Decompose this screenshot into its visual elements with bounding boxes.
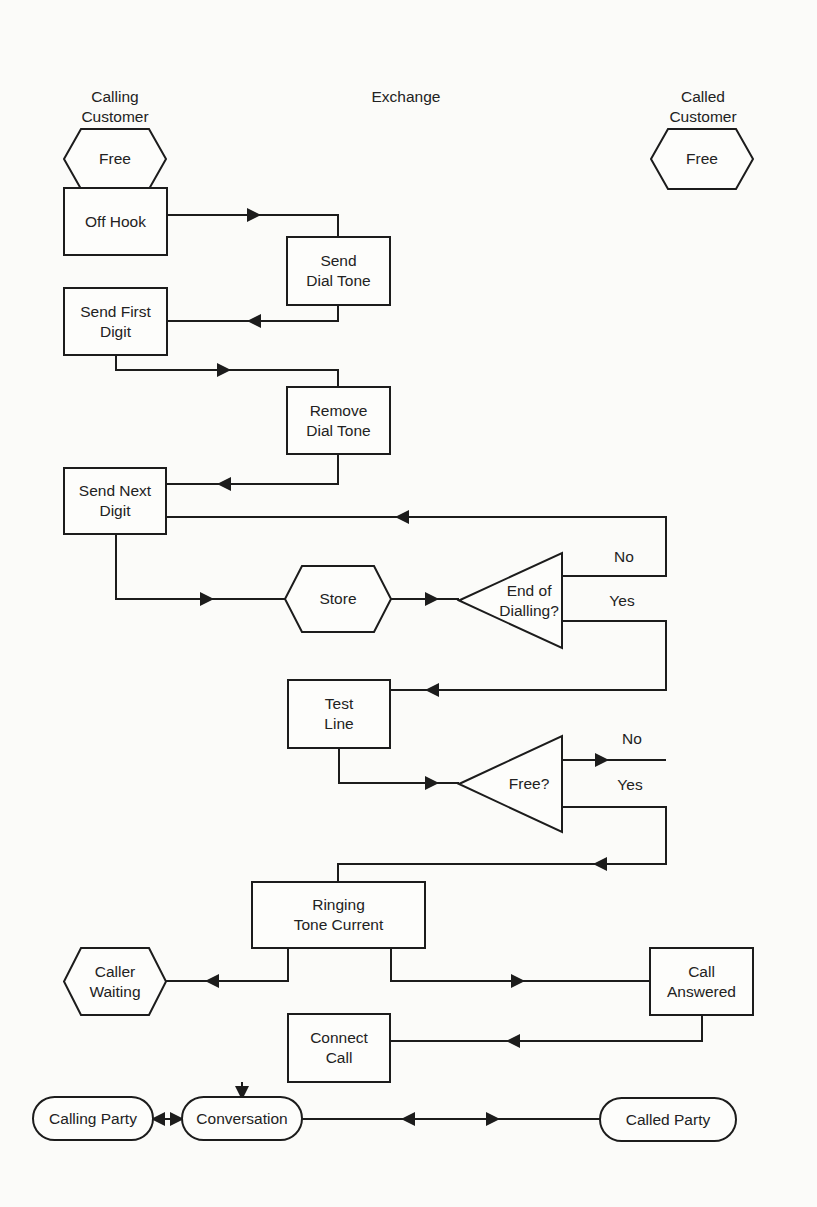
node-label: Free (686, 150, 718, 167)
node-called-party: Called Party (600, 1098, 736, 1141)
node-free-check: Free? (459, 736, 562, 832)
node-end-of-dialling: End ofDialling? (459, 553, 562, 648)
node-label: Answered (667, 983, 736, 1000)
node-caller-waiting: CallerWaiting (64, 948, 166, 1015)
process-box (64, 468, 166, 534)
node-label: Off Hook (85, 213, 146, 230)
node-label: End of (507, 582, 553, 599)
node-label: Digit (99, 502, 131, 519)
node-label: Waiting (89, 983, 140, 1000)
connector-send-next-digit-to-store (116, 534, 285, 606)
process-box (287, 387, 390, 454)
arrowhead-right-icon (486, 1112, 500, 1126)
arrowhead-left-icon (593, 857, 607, 871)
node-conversation: Conversation (182, 1097, 302, 1140)
arrowhead-left-icon (395, 510, 409, 524)
connector-ringing-tone-current-to-call-answered (391, 948, 650, 988)
process-box (64, 288, 167, 355)
state-hexagon (64, 948, 166, 1015)
column-header-calling-customer: Customer (81, 108, 148, 125)
node-send-first-digit: Send FirstDigit (64, 288, 167, 355)
branch-label: Yes (609, 592, 635, 609)
node-label: Remove (310, 402, 368, 419)
page-number: 22 (0, 0, 21, 1)
connector-off-hook-to-send-dial-tone (167, 208, 338, 237)
node-label: Connect (310, 1029, 368, 1046)
column-header-exchange: Exchange (372, 88, 441, 105)
node-calling-party: Calling Party (33, 1097, 153, 1140)
page-header: 22 HANDBOOK OF DATA COMMUNICATIONS (0, 0, 620, 1)
node-label: Send (320, 252, 356, 269)
node-label: Caller (95, 963, 135, 980)
connector-call-answered-to-connect-call (390, 1015, 702, 1048)
process-box (288, 1014, 390, 1082)
node-label: Ringing (312, 896, 365, 913)
connector-ringing-tone-current-to-caller-waiting (166, 948, 288, 988)
connector-calling-party-to-conversation (151, 1112, 184, 1126)
arrowhead-right-icon (425, 592, 439, 606)
connector-free-check-to-exit-no: No (562, 730, 666, 767)
node-label: Tone Current (294, 916, 384, 933)
connector-test-line-to-free-check (339, 748, 459, 790)
node-off-hook: Off Hook (64, 188, 167, 255)
node-label: Free (99, 150, 131, 167)
node-label: Store (319, 590, 356, 607)
branch-label: No (622, 730, 642, 747)
node-send-dial-tone: SendDial Tone (287, 237, 390, 305)
node-free-calling: Free (64, 129, 166, 189)
connector-conversation-to-called-party (302, 1112, 600, 1126)
node-free-called: Free (651, 129, 753, 189)
node-label: Called Party (626, 1111, 711, 1128)
arrowhead-left-icon (425, 683, 439, 697)
branch-label: Yes (617, 776, 643, 793)
connectors: NoYesNoYes (109, 176, 702, 1126)
node-remove-dial-tone: RemoveDial Tone (287, 387, 390, 454)
connector-send-dial-tone-to-send-first-digit (167, 305, 338, 328)
process-box (252, 882, 425, 948)
arrowhead-right-icon (595, 753, 609, 767)
arrowhead-right-icon (217, 363, 231, 377)
node-label: Dialling? (499, 602, 559, 619)
node-label: Conversation (196, 1110, 287, 1127)
node-call-answered: CallAnswered (650, 948, 753, 1015)
nodes: FreeFreeOff HookSendDial ToneSend FirstD… (33, 129, 753, 1141)
node-label: Call (326, 1049, 353, 1066)
node-connect-call: ConnectCall (288, 1014, 390, 1082)
node-test-line: TestLine (288, 680, 390, 748)
node-ringing-tone-current: RingingTone Current (252, 882, 425, 948)
column-header-calling-customer: Calling (91, 88, 138, 105)
call-setup-flowchart: 22 HANDBOOK OF DATA COMMUNICATIONS Calli… (0, 0, 817, 1207)
connector-end-of-dialling-to-send-next-digit: No (166, 510, 666, 576)
node-label: Call (688, 963, 715, 980)
node-label: Line (324, 715, 353, 732)
arrowhead-right-icon (425, 776, 439, 790)
process-box (288, 680, 390, 748)
arrowhead-right-icon (247, 208, 261, 222)
column-header-called-customer: Customer (669, 108, 736, 125)
node-send-next-digit: Send NextDigit (64, 468, 166, 534)
arrowhead-left-icon (401, 1112, 415, 1126)
running-title: HANDBOOK OF DATA COMMUNICATIONS (258, 0, 620, 1)
arrowhead-right-icon (200, 592, 214, 606)
process-box (650, 948, 753, 1015)
node-label: Dial Tone (306, 422, 370, 439)
node-label: Dial Tone (306, 272, 370, 289)
arrowhead-left-icon (247, 314, 261, 328)
arrowhead-left-icon (506, 1034, 520, 1048)
node-store: Store (285, 566, 391, 632)
connector-send-first-digit-to-remove-dial-tone (116, 355, 338, 387)
column-header-called-customer: Called (681, 88, 725, 105)
node-label: Send Next (79, 482, 152, 499)
process-box (287, 237, 390, 305)
node-label: Test (325, 695, 354, 712)
node-label: Digit (100, 323, 132, 340)
column-headers: CallingCustomerExchangeCalledCustomer (81, 88, 736, 125)
arrowhead-right-icon (511, 974, 525, 988)
connector-store-to-end-of-dialling (391, 592, 459, 606)
connector-remove-dial-tone-to-send-next-digit (166, 454, 338, 491)
arrowhead-left-icon (205, 974, 219, 988)
node-label: Free? (509, 775, 550, 792)
decision-triangle (459, 553, 562, 648)
node-label: Send First (80, 303, 151, 320)
node-label: Calling Party (49, 1110, 137, 1127)
